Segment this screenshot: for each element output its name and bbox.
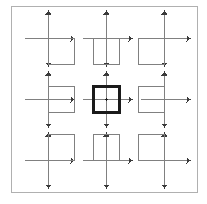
figure-background: [0, 0, 207, 204]
figure-root: [0, 0, 207, 204]
origin-dot: [105, 98, 108, 101]
nine-position-square-diagram: [0, 0, 207, 204]
